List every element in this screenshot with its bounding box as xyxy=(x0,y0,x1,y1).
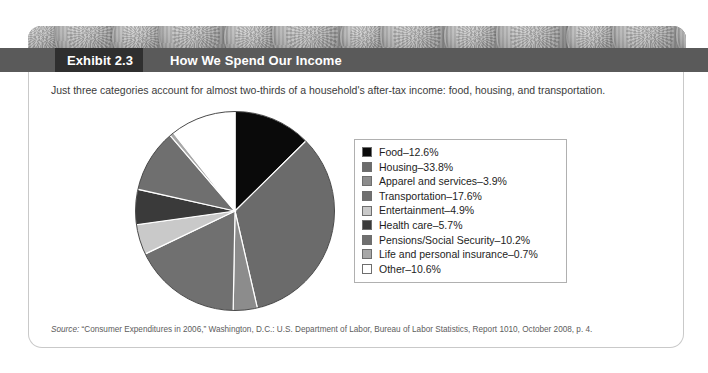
legend-item: Life and personal insurance–0.7% xyxy=(362,247,559,262)
legend-swatch-icon xyxy=(362,249,372,259)
chart-legend: Food–12.6%Housing–33.8%Apparel and servi… xyxy=(354,139,567,283)
pie-chart xyxy=(134,110,336,312)
legend-item: Transportation–17.6% xyxy=(362,189,559,204)
legend-item-label: Entertainment–4.9% xyxy=(379,205,474,216)
legend-swatch-icon xyxy=(362,147,372,157)
legend-item: Other–10.6% xyxy=(362,262,559,277)
legend-item-label: Apparel and services–3.9% xyxy=(379,176,507,187)
legend-item: Health care–5.7% xyxy=(362,218,559,233)
exhibit-title: How We Spend Our Income xyxy=(170,48,342,72)
legend-item: Housing–33.8% xyxy=(362,160,559,175)
source-label: Source: xyxy=(51,325,79,334)
legend-item-label: Food–12.6% xyxy=(379,147,439,158)
legend-item: Pensions/Social Security–10.2% xyxy=(362,233,559,248)
legend-item-label: Other–10.6% xyxy=(379,264,441,275)
source-note: Source: “Consumer Expenditures in 2006,”… xyxy=(51,325,651,336)
legend-item: Apparel and services–3.9% xyxy=(362,174,559,189)
legend-swatch-icon xyxy=(362,220,372,230)
exhibit-intro-text: Just three categories account for almost… xyxy=(51,84,651,98)
legend-swatch-icon xyxy=(362,206,372,216)
legend-item: Entertainment–4.9% xyxy=(362,203,559,218)
legend-swatch-icon xyxy=(362,264,372,274)
legend-item: Food–12.6% xyxy=(362,145,559,160)
legend-swatch-icon xyxy=(362,235,372,245)
legend-item-label: Housing–33.8% xyxy=(379,162,453,173)
pie-chart-svg xyxy=(134,110,336,312)
legend-item-label: Transportation–17.6% xyxy=(379,191,482,202)
legend-swatch-icon xyxy=(362,191,372,201)
exhibit-number-label: Exhibit 2.3 xyxy=(67,54,133,67)
source-citation: “Consumer Expenditures in 2006,” Washing… xyxy=(79,325,592,334)
legend-swatch-icon xyxy=(362,162,372,172)
pie-slice-group xyxy=(135,111,335,311)
legend-item-label: Life and personal insurance–0.7% xyxy=(379,249,538,260)
legend-item-label: Health care–5.7% xyxy=(379,220,462,231)
exhibit-number-tab: Exhibit 2.3 xyxy=(55,48,143,72)
legend-swatch-icon xyxy=(362,176,372,186)
legend-item-label: Pensions/Social Security–10.2% xyxy=(379,235,530,246)
